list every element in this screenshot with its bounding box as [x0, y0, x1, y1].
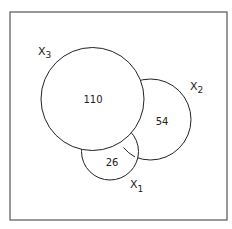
- region-x3-count: 110: [83, 94, 102, 105]
- region-x1-count: 26: [106, 157, 119, 168]
- venn-diagram: 110 54 26 X3 X2 X1: [0, 0, 232, 229]
- set-x1-label: X1: [130, 178, 143, 194]
- set-x2-label: X2: [190, 80, 203, 95]
- set-x3-label: X3: [38, 45, 51, 60]
- region-x2-count: 54: [156, 116, 169, 127]
